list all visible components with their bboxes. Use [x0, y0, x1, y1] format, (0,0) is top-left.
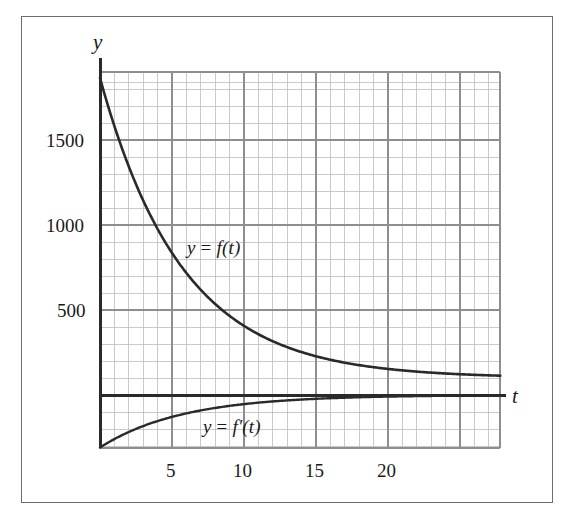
x-tick-label-15: 15: [305, 461, 324, 480]
curve-label-f-op: =: [196, 237, 217, 258]
grid-major-horizontal: [100, 72, 500, 448]
curve-label-f-rhs: f(t): [216, 237, 240, 258]
curve-label-f: y = f(t): [187, 238, 240, 257]
y-tick-label-1000: 1000: [46, 216, 84, 235]
curve-label-fp-rhs: f′(t): [232, 416, 260, 437]
y-tick-label-1500: 1500: [46, 131, 84, 150]
x-tick-label-10: 10: [233, 461, 252, 480]
grid-minor-horizontal: [100, 82, 500, 446]
curve-label-f-prime: y = f′(t): [203, 417, 261, 436]
grid-major-vertical: [172, 72, 500, 448]
curve-label-fp-lhs: y: [203, 416, 212, 437]
curve-label-f-lhs: y: [187, 237, 196, 258]
curve-label-fp-op: =: [212, 416, 233, 437]
x-tick-label-20: 20: [377, 461, 396, 480]
y-axis-label: y: [93, 32, 102, 53]
curve-f-prime: [100, 395, 500, 447]
figure-canvas: y t 1500 1000 500 5 10 15 20 y = f(t) y …: [0, 0, 561, 517]
graph-plot-area: [0, 0, 561, 517]
y-tick-label-500: 500: [57, 301, 86, 320]
x-tick-label-5: 5: [166, 461, 176, 480]
x-axis-label: t: [512, 386, 518, 407]
grid-minor-vertical: [114, 72, 488, 448]
